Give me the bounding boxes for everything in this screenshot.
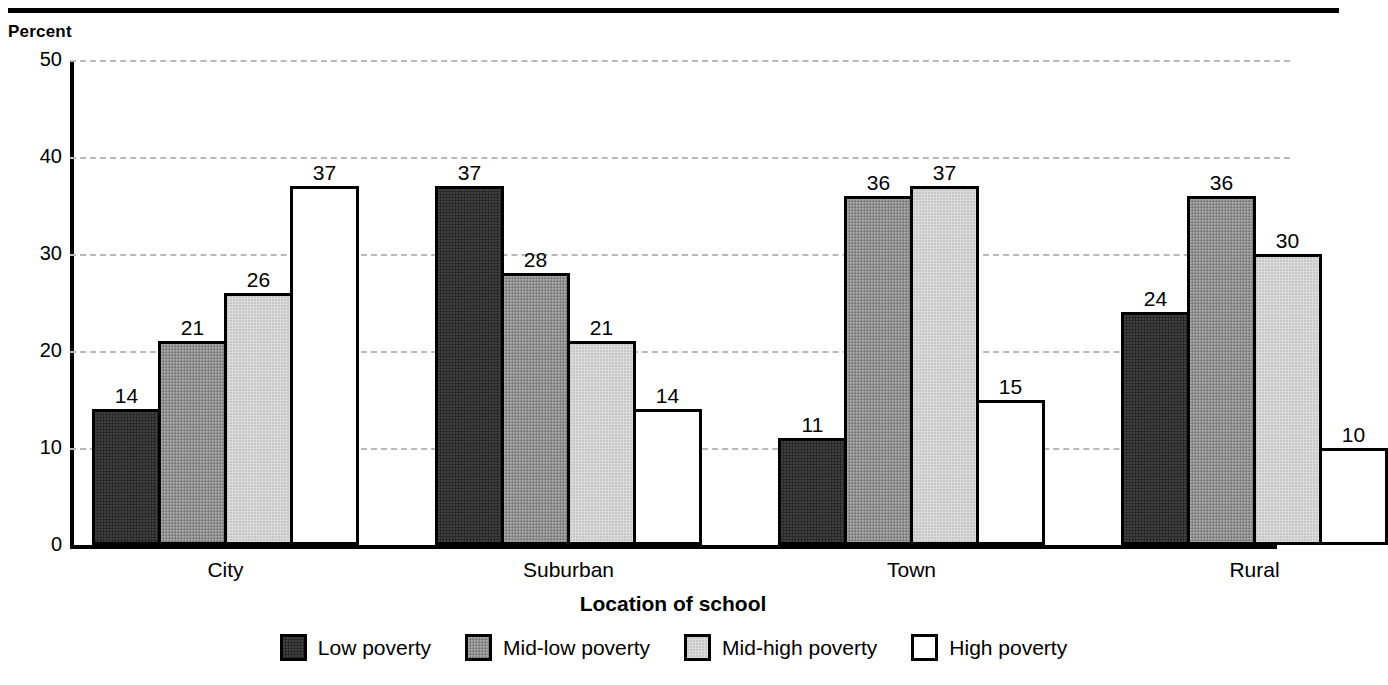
y-axis-tick-label: 30 xyxy=(2,242,62,265)
bar-value-label: 37 xyxy=(458,162,481,183)
bar: 37 xyxy=(435,186,504,545)
y-axis-line xyxy=(70,60,74,547)
legend-item: High poverty xyxy=(911,634,1067,661)
bar-value-label: 14 xyxy=(115,385,138,406)
bar-value-label: 21 xyxy=(590,317,613,338)
chart-legend: Low povertyMid-low povertyMid-high pover… xyxy=(0,634,1347,661)
x-axis-category-label: Suburban xyxy=(523,558,614,582)
y-axis-title: Percent xyxy=(8,22,72,42)
bar-value-label: 15 xyxy=(999,376,1022,397)
x-axis-category-label: Rural xyxy=(1229,558,1279,582)
bar: 10 xyxy=(1319,448,1388,545)
bar: 36 xyxy=(1187,196,1256,545)
legend-item: Mid-high poverty xyxy=(684,634,877,661)
bar: 15 xyxy=(976,400,1045,546)
bar-value-label: 37 xyxy=(313,162,336,183)
bar: 14 xyxy=(92,409,161,545)
x-axis-category-label: Town xyxy=(887,558,936,582)
y-axis-tick-label: 40 xyxy=(2,145,62,168)
bar-value-label: 10 xyxy=(1342,424,1365,445)
bar: 37 xyxy=(290,186,359,545)
bar-value-label: 21 xyxy=(181,317,204,338)
legend-label: Mid-high poverty xyxy=(722,636,877,660)
top-rule xyxy=(8,8,1339,13)
legend-label: High poverty xyxy=(949,636,1067,660)
bar: 14 xyxy=(633,409,702,545)
plot-area: 14212637372821141136371524363010 xyxy=(70,60,1277,545)
bar-value-label: 11 xyxy=(802,414,824,435)
legend-label: Low poverty xyxy=(318,636,431,660)
bar: 11 xyxy=(778,438,847,545)
bar: 28 xyxy=(501,273,570,545)
bar-value-label: 37 xyxy=(933,162,956,183)
legend-swatch xyxy=(465,634,492,661)
y-axis-tick-label: 50 xyxy=(2,48,62,71)
bar: 37 xyxy=(910,186,979,545)
x-axis-category-label: City xyxy=(207,558,243,582)
bar: 21 xyxy=(567,341,636,545)
bar-value-label: 30 xyxy=(1276,230,1299,251)
legend-swatch xyxy=(280,634,307,661)
bar: 30 xyxy=(1253,254,1322,545)
bar-value-label: 26 xyxy=(247,269,270,290)
bar-value-label: 28 xyxy=(524,249,547,270)
bar: 36 xyxy=(844,196,913,545)
bar: 26 xyxy=(224,293,293,545)
y-axis-tick-label: 10 xyxy=(2,436,62,459)
legend-label: Mid-low poverty xyxy=(503,636,650,660)
gridline xyxy=(70,157,1290,159)
x-axis-title: Location of school xyxy=(580,592,767,616)
bar-value-label: 36 xyxy=(867,172,890,193)
y-axis-tick-label: 20 xyxy=(2,339,62,362)
legend-swatch xyxy=(684,634,711,661)
bar-value-label: 14 xyxy=(656,385,679,406)
y-axis-tick-label: 0 xyxy=(2,533,62,556)
bar-value-label: 36 xyxy=(1210,172,1233,193)
legend-item: Low poverty xyxy=(280,634,431,661)
bar: 21 xyxy=(158,341,227,545)
x-axis-line xyxy=(70,545,1277,549)
bar: 24 xyxy=(1121,312,1190,545)
gridline xyxy=(70,60,1290,62)
gridline xyxy=(70,254,1290,256)
bar-value-label: 24 xyxy=(1144,288,1167,309)
legend-item: Mid-low poverty xyxy=(465,634,650,661)
legend-swatch xyxy=(911,634,938,661)
